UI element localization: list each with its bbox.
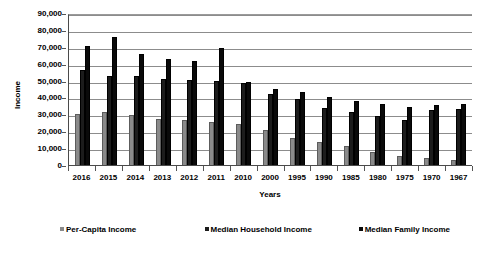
bar-group <box>123 15 150 165</box>
bar <box>219 48 224 165</box>
y-axis-tick-mark <box>62 98 66 99</box>
y-axis-tick-label: 20,000 <box>38 128 62 136</box>
y-axis-tick-mark <box>62 48 66 49</box>
x-axis-tick-label: 2000 <box>257 172 284 184</box>
bar-group <box>96 15 123 165</box>
x-axis-tick-mark <box>284 166 285 171</box>
legend-item[interactable]: Median Household Income <box>205 225 359 234</box>
x-axis-tick-label: 1985 <box>337 172 364 184</box>
bar-group <box>311 15 338 165</box>
chart-legend: Per-Capita IncomeMedian Household Income… <box>60 222 450 236</box>
bar-group <box>364 15 391 165</box>
x-axis-tick-label: 1980 <box>364 172 391 184</box>
x-axis-tick-label: 1970 <box>418 172 445 184</box>
y-axis-tick-label: 30,000 <box>38 111 62 119</box>
x-axis-tick-mark <box>149 166 150 171</box>
legend-item[interactable]: Median Family Income <box>359 225 450 234</box>
y-axis-tick-mark <box>62 132 66 133</box>
bar <box>380 104 385 165</box>
x-axis-tick-mark <box>337 166 338 171</box>
bar-group <box>257 15 284 165</box>
y-axis-tick-mark <box>62 31 66 32</box>
bar-groups <box>69 15 472 165</box>
income-bar-chart: Income 90,00080,00070,00060,00050,00040,… <box>0 0 500 256</box>
plot-area <box>68 14 472 166</box>
y-axis-tick-label: 80,000 <box>38 27 62 35</box>
x-axis-tick-mark <box>364 166 365 171</box>
bar-group <box>391 15 418 165</box>
bar <box>300 92 305 165</box>
x-axis-tick-label: 2011 <box>203 172 230 184</box>
x-axis-tick-label: 2014 <box>122 172 149 184</box>
legend-swatch-icon <box>60 227 64 231</box>
x-axis-tick-label: 2013 <box>149 172 176 184</box>
y-axis-tick-label: 70,000 <box>38 44 62 52</box>
bar-group <box>203 15 230 165</box>
x-axis-tick-mark <box>203 166 204 171</box>
x-axis-tick-mark <box>176 166 177 171</box>
x-axis-tick-mark <box>95 166 96 171</box>
x-axis-tick-mark <box>122 166 123 171</box>
bar <box>327 97 332 165</box>
bar <box>192 61 197 165</box>
x-axis-tick-mark <box>257 166 258 171</box>
x-axis-tick-label: 2015 <box>95 172 122 184</box>
y-axis-title: Income <box>10 50 24 140</box>
y-axis-tick-labels: 90,00080,00070,00060,00050,00040,00030,0… <box>24 14 66 166</box>
bar-group <box>176 15 203 165</box>
x-axis-tick-label: 1990 <box>310 172 337 184</box>
bar <box>246 82 251 165</box>
bar <box>407 107 412 165</box>
bar <box>166 59 171 165</box>
x-axis-tick-mark <box>418 166 419 171</box>
bar <box>85 46 90 165</box>
bar <box>273 89 278 165</box>
y-axis-tick-label: 60,000 <box>38 61 62 69</box>
y-axis-tick-mark <box>62 115 66 116</box>
x-axis-tick-mark <box>391 166 392 171</box>
bar-group <box>230 15 257 165</box>
bar-group <box>69 15 96 165</box>
x-axis-tick-mark <box>310 166 311 171</box>
legend-label: Median Household Income <box>211 225 312 234</box>
bar <box>461 104 466 165</box>
x-axis-tick-label: 1975 <box>391 172 418 184</box>
bar <box>434 105 439 165</box>
legend-label: Median Family Income <box>365 225 450 234</box>
bar-group <box>338 15 365 165</box>
y-axis-tick-mark <box>62 65 66 66</box>
y-axis-tick-label: 50,000 <box>38 78 62 86</box>
x-axis-title: Years <box>68 190 472 199</box>
bar-group <box>150 15 177 165</box>
bar-group <box>445 15 472 165</box>
x-axis-tick-mark <box>68 166 69 171</box>
y-axis-tick-mark <box>62 149 66 150</box>
x-axis-tick-label: 2012 <box>176 172 203 184</box>
x-axis-tick-label: 2016 <box>68 172 95 184</box>
x-axis-tick-mark <box>230 166 231 171</box>
bar <box>112 37 117 165</box>
bar <box>139 54 144 165</box>
x-axis-tick-label: 2010 <box>230 172 257 184</box>
legend-swatch-icon <box>205 227 209 231</box>
legend-item[interactable]: Per-Capita Income <box>60 225 205 234</box>
x-axis-tick-label: 1967 <box>445 172 472 184</box>
y-axis-tick-label: 40,000 <box>38 94 62 102</box>
legend-swatch-icon <box>359 227 363 231</box>
x-axis-tick-label: 1995 <box>284 172 311 184</box>
bar-group <box>418 15 445 165</box>
bar <box>354 101 359 165</box>
y-axis-tick-mark <box>62 166 66 167</box>
legend-label: Per-Capita Income <box>66 225 136 234</box>
y-axis-tick-label: 10,000 <box>38 145 62 153</box>
x-axis-tick-mark <box>472 166 473 171</box>
y-axis-tick-mark <box>62 14 66 15</box>
y-axis-tick-label: 90,000 <box>38 10 62 18</box>
y-axis-tick-mark <box>62 82 66 83</box>
x-axis-tick-labels: 2016201520142013201220112010200019951990… <box>68 172 472 184</box>
x-axis-tick-mark <box>445 166 446 171</box>
bar-group <box>284 15 311 165</box>
